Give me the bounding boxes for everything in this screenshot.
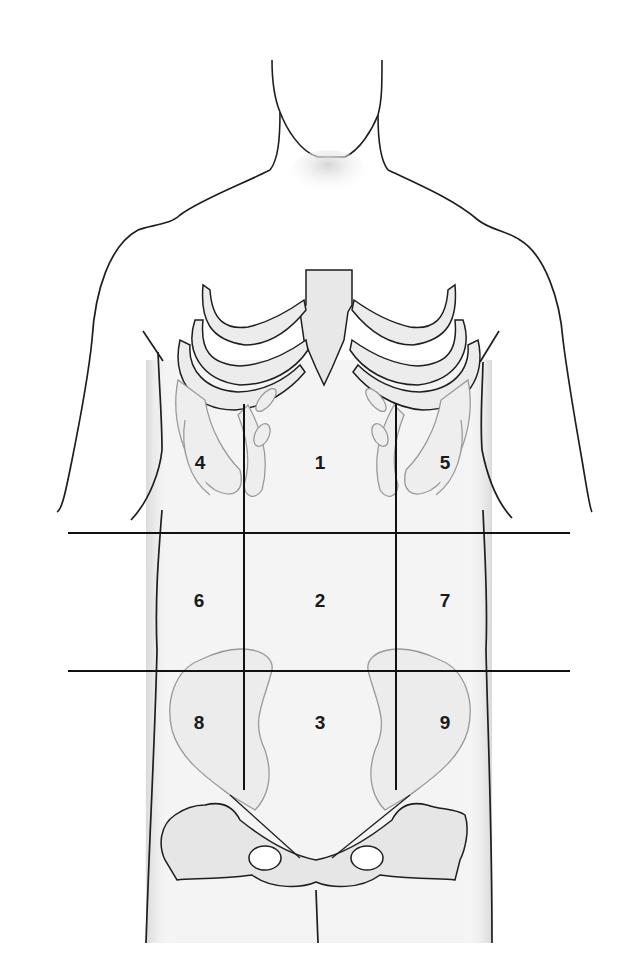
- region-label-1: 1: [315, 453, 326, 472]
- region-label-9: 9: [440, 713, 451, 732]
- region-label-7: 7: [440, 591, 451, 610]
- torso-illustration: [0, 0, 642, 980]
- region-label-2: 2: [315, 591, 326, 610]
- abdominal-regions-diagram: 1 2 3 4 5 6 7 8 9: [0, 0, 642, 980]
- region-label-3: 3: [315, 713, 326, 732]
- region-label-8: 8: [194, 713, 205, 732]
- region-label-4: 4: [195, 453, 206, 472]
- region-label-6: 6: [194, 591, 205, 610]
- region-label-5: 5: [440, 453, 451, 472]
- neck: [270, 60, 388, 200]
